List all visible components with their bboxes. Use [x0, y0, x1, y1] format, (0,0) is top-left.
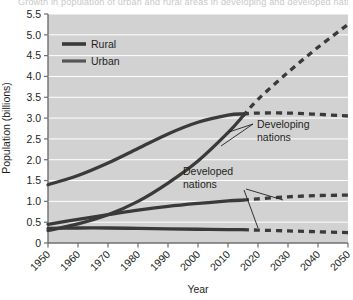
y-tick-label: 2.0	[26, 154, 41, 166]
y-tick-label: 2.5	[26, 133, 41, 145]
x-tick-label: 2030	[267, 248, 292, 273]
x-tick-label: 2000	[177, 248, 202, 273]
y-tick-label: 5.5	[26, 8, 41, 20]
y-tick-label: 4.0	[26, 70, 41, 82]
population-chart-figure: Growth in population of urban and rural …	[0, 0, 353, 300]
y-tick-label: 5.0	[26, 29, 41, 41]
y-tick-label: 3.5	[26, 91, 41, 103]
x-tick-label: 2050	[327, 248, 352, 273]
y-tick-label: 3.0	[26, 112, 41, 124]
legend-label-urban: Urban	[91, 55, 120, 67]
y-axis-tick-labels: 00.51.01.52.02.53.03.54.04.55.05.5	[26, 8, 41, 249]
y-tick-label: 1.5	[26, 174, 41, 186]
y-tick-label: 0.5	[26, 216, 41, 228]
legend-label-rural: Rural	[91, 38, 116, 50]
x-tick-label: 1980	[117, 248, 142, 273]
y-tick-label: 4.5	[26, 49, 41, 61]
chart-svg: 00.51.01.52.02.53.03.54.04.55.05.5 19501…	[0, 0, 353, 300]
x-tick-label: 1970	[87, 248, 112, 273]
y-tick-label: 0	[35, 237, 41, 249]
x-tick-label: 2040	[297, 248, 322, 273]
x-tick-label: 1950	[27, 248, 52, 273]
series-line-solid-3	[48, 228, 243, 230]
x-tick-label: 1990	[147, 248, 172, 273]
x-tick-label: 1960	[57, 248, 82, 273]
x-axis-tick-labels: 1950196019701980199020002010202020302040…	[27, 248, 352, 273]
x-axis-title: Year	[187, 283, 209, 295]
annotation-developed-line2: nations	[183, 178, 217, 190]
annotation-developed-line1: Developed	[183, 165, 233, 177]
y-tick-label: 1.0	[26, 195, 41, 207]
x-tick-label: 2020	[237, 248, 262, 273]
x-tick-label: 2010	[207, 248, 232, 273]
y-axis-title: Population (billions)	[0, 82, 12, 174]
annotation-developing-line2: nations	[257, 131, 291, 143]
annotation-developing-line1: Developing	[257, 118, 310, 130]
